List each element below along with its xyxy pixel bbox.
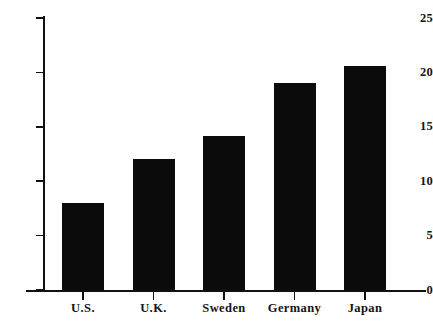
bar-germany xyxy=(274,83,316,290)
x-axis-tick-label-u-s: U.S. xyxy=(71,302,95,315)
x-axis-tick-label-japan: Japan xyxy=(348,302,383,315)
bars-layer xyxy=(0,0,433,290)
bar-japan xyxy=(344,66,386,290)
x-axis-tick xyxy=(223,292,225,300)
bar-chart: 0510152025 U.S.U.K.SwedenGermanyJapan xyxy=(0,0,433,322)
x-axis-tick xyxy=(364,292,366,300)
bars-container xyxy=(0,0,433,290)
x-axis-tick-label-germany: Germany xyxy=(268,302,321,315)
bar-sweden xyxy=(203,136,245,290)
x-axis-tick xyxy=(82,292,84,300)
x-axis-line xyxy=(26,290,426,292)
x-axis-tick xyxy=(294,292,296,300)
bar-u-k xyxy=(133,159,175,290)
bar-u-s xyxy=(62,203,104,290)
x-axis-tick-label-sweden: Sweden xyxy=(202,302,245,315)
x-axis-tick xyxy=(153,292,155,300)
x-axis-tick-label-u-k: U.K. xyxy=(140,302,167,315)
